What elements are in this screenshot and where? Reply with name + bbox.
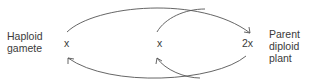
arrows-layer bbox=[0, 0, 309, 84]
arrow-middle-to-2x bbox=[157, 9, 205, 32]
